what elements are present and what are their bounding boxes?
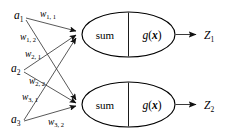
weight-label-w12: w1, 2 (20, 32, 36, 43)
input-a2-subscript: 2 (17, 68, 21, 77)
node-1-sum-label: sum (96, 29, 115, 41)
output-label-z2: Z2 (204, 99, 214, 114)
weight-label-w31: w3, 1 (22, 92, 38, 103)
weight-w21-subscript: 2, 1 (31, 53, 41, 60)
input-a3-subscript: 3 (17, 119, 21, 128)
weight-label-w32: w3, 2 (48, 117, 64, 128)
neuron-node-2[interactable]: sum g(x) (82, 82, 175, 127)
input-label-a3: a3 (11, 113, 21, 128)
weight-w11-subscript: 1, 1 (46, 13, 56, 20)
input-a1-subscript: 1 (20, 15, 24, 24)
node-2-activation-label: g(x) (142, 99, 161, 112)
output-lines (176, 35, 197, 105)
weight-w31-subscript: 3, 1 (28, 96, 38, 103)
connection-lines (24, 18, 76, 121)
diagram-canvas: sum g(x) sum g(x) a1 a2 a3 w1, 1 w1, 2 w… (0, 0, 228, 135)
node-2-activation-close: ) (158, 99, 162, 112)
weight-w32-subscript: 3, 2 (54, 121, 64, 128)
node-1-activation-close: ) (158, 29, 162, 42)
input-labels: a1 a2 a3 (11, 9, 24, 128)
weight-label-w11: w1, 1 (40, 9, 56, 20)
neural-network-diagram: sum g(x) sum g(x) a1 a2 a3 w1, 1 w1, 2 w… (0, 0, 228, 135)
input-label-a2: a2 (11, 62, 21, 77)
output-labels: Z1 Z2 (204, 29, 214, 114)
output-label-z1: Z1 (204, 29, 214, 44)
output-z2-subscript: 2 (210, 105, 214, 114)
node-2-sum-label: sum (96, 99, 115, 111)
node-1-activation-label: g(x) (142, 29, 161, 42)
neuron-node-1[interactable]: sum g(x) (82, 12, 175, 57)
weight-w22-subscript: 2, 2 (35, 80, 45, 87)
weight-w12-subscript: 1, 2 (26, 36, 36, 43)
output-z1-subscript: 1 (210, 35, 214, 44)
input-label-a1: a1 (14, 9, 24, 24)
weight-label-w22: w2, 2 (29, 76, 45, 87)
weight-label-w21: w2, 1 (25, 49, 41, 60)
